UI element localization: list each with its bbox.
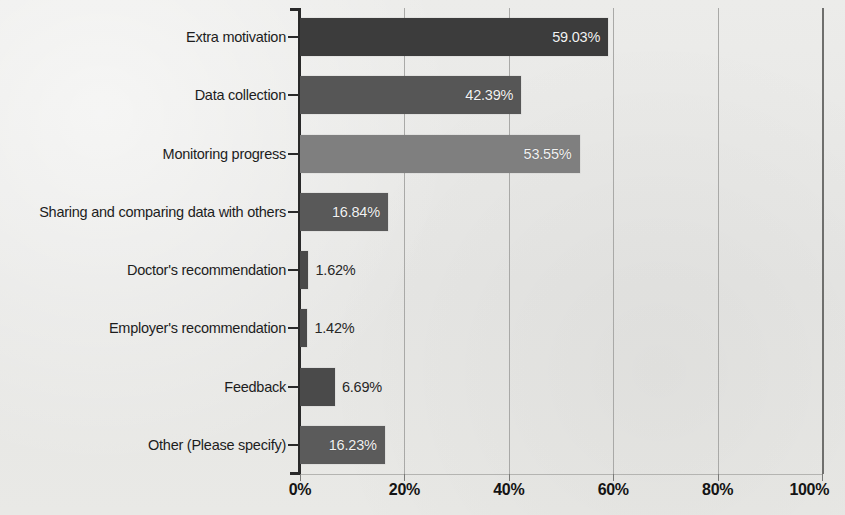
bar-row: 1.62%	[300, 251, 822, 289]
bar-value-label: 53.55%	[524, 146, 572, 162]
y-tick-1	[288, 36, 300, 38]
x-tick-mark-20	[404, 474, 405, 481]
bar-row: 59.03%	[300, 18, 822, 56]
category-label-4: Sharing and comparing data with others	[39, 204, 286, 220]
bar-row: 42.39%	[300, 76, 822, 114]
bar-7[interactable]	[300, 368, 335, 406]
bar-value-label: 42.39%	[465, 87, 513, 103]
category-label-2: Data collection	[195, 87, 286, 103]
x-tick-mark-40	[509, 474, 510, 481]
bar-value-label: 1.42%	[314, 320, 354, 336]
bar-value-label: 1.62%	[315, 262, 355, 278]
category-label-8: Other (Please specify)	[148, 437, 286, 453]
x-tick-label-100: 100%	[789, 481, 829, 499]
bar-row: 1.42%	[300, 309, 822, 347]
bar-5[interactable]	[300, 251, 308, 289]
x-tick-mark-100	[822, 474, 823, 481]
x-tick-label-20: 20%	[389, 481, 420, 499]
y-axis-top-cap	[290, 8, 301, 11]
y-tick-2	[288, 94, 300, 96]
y-tick-8	[288, 444, 300, 446]
x-tick-label-80: 80%	[702, 481, 733, 499]
x-tick-label-0: 0%	[289, 481, 312, 499]
x-axis-baseline	[300, 474, 823, 475]
bar-value-label: 59.03%	[552, 29, 600, 45]
bar-row: 6.69%	[300, 368, 822, 406]
bar-chart: 59.03%42.39%53.55%16.84%1.62%1.42%6.69%1…	[0, 0, 845, 515]
x-tick-label-60: 60%	[598, 481, 629, 499]
y-tick-6	[288, 327, 300, 329]
category-label-5: Doctor's recommendation	[127, 262, 286, 278]
bar-value-label: 6.69%	[342, 379, 382, 395]
x-tick-mark-60	[613, 474, 614, 481]
x-tick-label-40: 40%	[493, 481, 524, 499]
category-label-6: Employer's recommendation	[109, 320, 286, 336]
y-tick-3	[288, 153, 300, 155]
bar-value-label: 16.84%	[332, 204, 380, 220]
category-label-7: Feedback	[224, 379, 286, 395]
bar-row: 16.23%	[300, 426, 822, 464]
bar-row: 53.55%	[300, 135, 822, 173]
category-label-3: Monitoring progress	[163, 146, 286, 162]
gridline-100	[822, 8, 824, 474]
x-tick-mark-80	[718, 474, 719, 481]
y-tick-7	[288, 386, 300, 388]
y-tick-4	[288, 211, 300, 213]
y-tick-5	[288, 269, 300, 271]
bar-6[interactable]	[300, 309, 307, 347]
bar-row: 16.84%	[300, 193, 822, 231]
category-label-1: Extra motivation	[186, 29, 286, 45]
x-tick-mark-0	[300, 474, 301, 481]
bar-value-label: 16.23%	[329, 437, 377, 453]
